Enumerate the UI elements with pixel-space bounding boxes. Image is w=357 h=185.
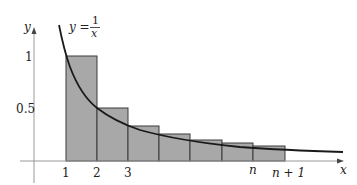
y-axis-label: y (23, 20, 31, 34)
function-label-numerator: 1 (92, 14, 99, 27)
harmonic-series-diagram: y x 1 0.5 1 2 3 n n + 1 y = 1 x (0, 0, 357, 185)
y-axis-arrow-icon (32, 27, 37, 34)
x-tick-n: n (249, 163, 257, 177)
bar-1 (66, 56, 97, 161)
bar-2 (97, 108, 128, 161)
y-tick-0-5: 0.5 (16, 102, 35, 116)
y-tick-1: 1 (25, 50, 33, 64)
function-label-lhs: y = (68, 20, 90, 34)
x-tick-3: 3 (124, 166, 132, 180)
x-tick-1: 1 (62, 166, 70, 180)
function-label: y = 1 x (68, 14, 100, 40)
x-tick-2: 2 (93, 166, 101, 180)
x-tick-n-plus-1: n + 1 (272, 166, 305, 180)
function-label-denominator: x (91, 27, 98, 40)
x-axis-label: x (340, 163, 347, 177)
